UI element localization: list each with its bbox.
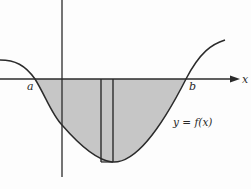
x-axis-arrow-icon — [230, 76, 240, 83]
label-b: b — [189, 80, 196, 93]
label-x-axis: x — [242, 73, 249, 86]
diagram-canvas: x a b y = f(x) — [0, 0, 251, 189]
rectangle-strip — [101, 79, 113, 162]
label-a: a — [27, 80, 34, 93]
label-curve: y = f(x) — [172, 116, 212, 128]
area-diagram: x a b y = f(x) — [0, 0, 251, 189]
